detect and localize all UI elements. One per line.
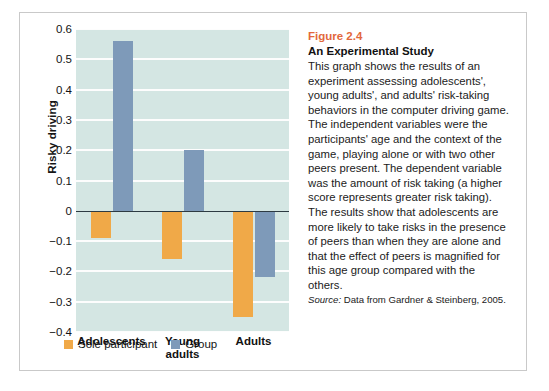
legend-swatch-icon-sole-participant: [64, 340, 73, 349]
y-tick-label: −0.2: [49, 265, 72, 277]
chart-legend: Sole participant Group: [64, 338, 217, 350]
gridline: [76, 119, 289, 121]
caption-column: Figure 2.4 An Experimental Study This gr…: [308, 29, 512, 306]
y-tick-label: 0.2: [56, 144, 72, 156]
source-text: Data from Gardner & Steinberg, 2005.: [341, 294, 506, 305]
y-tick-label: 0.4: [56, 84, 72, 96]
legend-label-group: Group: [185, 338, 217, 350]
bar-young-adults-group: [184, 150, 204, 211]
y-axis-tick-labels: 0.60.50.40.30.20.10−0.1−0.2−0.3−0.4: [38, 29, 72, 332]
gridline: [76, 331, 289, 332]
zero-axis-line: [76, 211, 289, 213]
figure-number: Figure 2.4: [308, 29, 512, 43]
plot-area: [76, 29, 289, 332]
gridline: [76, 58, 289, 60]
chart-column: Risky driving 0.60.50.40.30.20.10−0.1−0.…: [20, 13, 300, 372]
legend-item-group: Group: [171, 338, 217, 350]
y-tick-label: −0.1: [49, 235, 72, 247]
gridline: [76, 89, 289, 91]
y-tick-label: 0.1: [56, 175, 72, 187]
plot-wrap: 0.60.50.40.30.20.10−0.1−0.2−0.3−0.4: [76, 29, 289, 332]
y-tick-label: 0.6: [56, 23, 72, 35]
y-tick-label: 0.5: [56, 53, 72, 65]
y-tick-label: 0.3: [56, 114, 72, 126]
gridline: [76, 149, 289, 151]
bar-adolescents-group: [113, 41, 133, 211]
figure-card: Risky driving 0.60.50.40.30.20.10−0.1−0.…: [19, 12, 527, 371]
gridline: [76, 301, 289, 303]
source-label: Source:: [308, 294, 341, 305]
bar-adolescents-sole-participant: [91, 211, 111, 238]
gridline: [76, 29, 289, 30]
legend-swatch-icon-group: [171, 340, 180, 349]
gridline: [76, 180, 289, 182]
bar-adults-group: [255, 211, 275, 278]
figure-title: An Experimental Study: [308, 44, 512, 58]
bar-adults-sole-participant: [233, 211, 253, 317]
category-label-adults: Adults: [212, 335, 296, 348]
y-tick-label: 0: [66, 205, 72, 217]
figure-source: Source: Data from Gardner & Steinberg, 2…: [308, 294, 512, 306]
figure-body-text: This graph shows the results of an exper…: [308, 59, 512, 293]
legend-label-sole-participant: Sole participant: [78, 338, 157, 350]
y-tick-label: −0.3: [49, 296, 72, 308]
legend-item-sole-participant: Sole participant: [64, 338, 157, 350]
bar-young-adults-sole-participant: [162, 211, 182, 259]
